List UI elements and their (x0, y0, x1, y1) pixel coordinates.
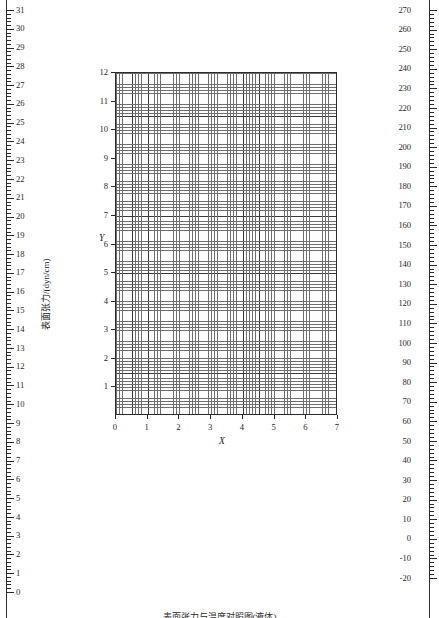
axis-tick-minor (7, 164, 11, 165)
axis-tick-label: 120 (398, 299, 411, 308)
axis-tick-minor (7, 453, 11, 454)
axis-tick-minor (430, 218, 434, 219)
axis-tick-minor (430, 339, 434, 340)
axis-tick-minor (7, 145, 11, 146)
axis-tick-minor (7, 344, 11, 345)
axis-tick-label: 250 (398, 45, 411, 54)
axis-tick-minor (7, 78, 11, 79)
axis-tick-minor (7, 59, 11, 60)
axis-tick-minor (7, 581, 11, 582)
axis-tick-major (7, 235, 14, 236)
plot-y-tick-label: 12 (93, 68, 108, 77)
axis-tick-major (430, 167, 437, 168)
axis-tick-minor (7, 412, 11, 413)
axis-tick-minor (7, 288, 11, 289)
axis-tick-label: 80 (403, 378, 411, 387)
axis-tick-label: 5 (16, 494, 20, 503)
axis-tick-minor (430, 413, 434, 414)
axis-tick-label: 180 (398, 182, 411, 191)
axis-tick-major (7, 367, 14, 368)
axis-tick-label: 60 (403, 417, 411, 426)
axis-tick-minor (430, 257, 434, 258)
axis-tick-minor (7, 506, 11, 507)
axis-tick-minor (430, 535, 434, 536)
axis-tick-major (7, 160, 14, 161)
axis-tick-minor (7, 340, 11, 341)
axis-tick-major (7, 292, 14, 293)
plot-y-tick (111, 101, 115, 102)
axis-tick-minor (430, 327, 434, 328)
axis-tick-major (430, 323, 437, 324)
axis-tick-minor (7, 333, 11, 334)
plot-y-tick-label: 8 (93, 182, 108, 191)
axis-tick-major (430, 304, 437, 305)
axis-tick-minor (430, 374, 434, 375)
axis-tick-minor (430, 437, 434, 438)
axis-tick-label: 190 (398, 162, 411, 171)
plot-x-tick-label: 7 (335, 423, 339, 432)
axis-tick-label: 18 (16, 250, 24, 259)
plot-y-axis-title: Y (99, 233, 104, 243)
plot-x-tick (305, 415, 306, 419)
axis-tick-minor (430, 504, 434, 505)
figure-caption: 表面张力与温度对照图(液体) (0, 610, 439, 618)
axis-tick-major (7, 404, 14, 405)
plot-x-tick (210, 415, 211, 419)
axis-tick-minor (430, 241, 434, 242)
plot-x-tick (147, 415, 148, 419)
axis-tick-minor (7, 401, 11, 402)
axis-tick-major (430, 88, 437, 89)
axis-tick-minor (7, 476, 11, 477)
axis-tick-minor (430, 73, 434, 74)
axis-tick-minor (7, 303, 11, 304)
axis-tick-minor (7, 502, 11, 503)
axis-tick-minor (7, 494, 11, 495)
axis-tick-minor (7, 532, 11, 533)
axis-tick-minor (7, 277, 11, 278)
axis-tick-minor (430, 202, 434, 203)
axis-tick-minor (430, 143, 434, 144)
axis-tick-label: 17 (16, 268, 24, 277)
plot-x-axis-title: X (219, 436, 225, 446)
axis-tick-minor (7, 156, 11, 157)
axis-tick-minor (430, 41, 434, 42)
axis-tick-minor (430, 124, 434, 125)
axis-tick-label: 110 (399, 319, 411, 328)
axis-tick-minor (430, 182, 434, 183)
axis-tick-minor (430, 531, 434, 532)
axis-tick-minor (430, 406, 434, 407)
axis-tick-major (430, 206, 437, 207)
axis-tick-minor (430, 468, 434, 469)
axis-tick-label: 24 (16, 137, 24, 146)
axis-tick-major (7, 385, 14, 386)
plot-y-tick (111, 244, 115, 245)
axis-tick-major (430, 108, 437, 109)
axis-tick-minor (7, 14, 11, 15)
axis-tick-minor (430, 398, 434, 399)
axis-tick-major (7, 554, 14, 555)
axis-tick-minor (430, 292, 434, 293)
axis-tick-minor (430, 366, 434, 367)
surface-tension-axis: 3130292827262524232221201918171615141312… (0, 0, 70, 618)
axis-tick-label: 210 (398, 123, 411, 132)
axis-tick-minor (7, 108, 11, 109)
axis-tick-minor (7, 528, 11, 529)
axis-tick-minor (7, 295, 11, 296)
axis-tick-minor (7, 262, 11, 263)
axis-tick-minor (430, 100, 434, 101)
axis-tick-minor (7, 363, 11, 364)
axis-tick-minor (7, 359, 11, 360)
plot-y-tick (111, 272, 115, 273)
axis-tick-major (7, 479, 14, 480)
axis-tick-minor (7, 322, 11, 323)
axis-tick-minor (430, 37, 434, 38)
axis-tick-minor (430, 370, 434, 371)
plot-x-tick (115, 415, 116, 419)
axis-tick-minor (430, 566, 434, 567)
axis-tick-minor (430, 210, 434, 211)
axis-tick-minor (7, 209, 11, 210)
axis-tick-label: 20 (16, 212, 24, 221)
axis-tick-minor (430, 237, 434, 238)
axis-tick-minor (7, 397, 11, 398)
plot-grid-area[interactable] (115, 72, 337, 415)
